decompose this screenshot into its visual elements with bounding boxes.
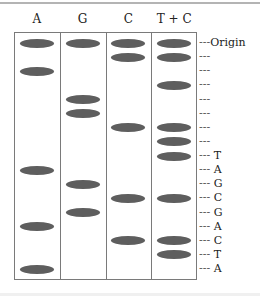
gel-band (157, 39, 191, 48)
dash-line: --- (199, 163, 210, 176)
dash-line: --- (199, 78, 210, 91)
row-marker: --- C (199, 192, 222, 204)
gel-band (66, 109, 100, 118)
marker-label: Origin (210, 36, 245, 49)
gel-band (157, 81, 191, 90)
row-marker: --- A (199, 263, 222, 275)
lane-divider (151, 32, 152, 280)
row-marker: --- T (199, 249, 221, 261)
gel-band (157, 152, 191, 161)
gel-band (157, 194, 191, 203)
dash-line: --- (199, 121, 210, 134)
dash-line: --- (199, 262, 210, 275)
marker-label: C (210, 234, 222, 247)
dash-line: --- (199, 50, 210, 63)
row-marker: --- (199, 65, 210, 77)
marker-label: G (210, 206, 222, 219)
dash-line: --- (199, 135, 210, 148)
marker-label: G (210, 177, 222, 190)
row-marker: --- (199, 51, 210, 63)
marker-label: T (210, 149, 221, 162)
gel-band (111, 39, 145, 48)
dash-line: --- (199, 220, 210, 233)
row-marker: --- (199, 108, 210, 120)
row-marker: --- (199, 94, 210, 106)
lane-label: G (60, 12, 106, 26)
marker-label: A (210, 220, 221, 233)
gel-band (66, 208, 100, 217)
gel-band (66, 95, 100, 104)
row-marker: --- (199, 122, 210, 134)
lane-label: T + C (151, 12, 197, 26)
row-marker: --- (199, 79, 210, 91)
lane-divider (106, 32, 107, 280)
marker-label: C (210, 191, 222, 204)
gel-band (20, 67, 54, 76)
gel-band (111, 53, 145, 62)
row-marker: --- T (199, 150, 221, 162)
dash-line: --- (199, 191, 210, 204)
row-marker: --- G (199, 178, 222, 190)
dash-line: --- (199, 36, 210, 49)
gel-band (20, 265, 54, 274)
dash-line: --- (199, 206, 210, 219)
marker-label: T (210, 248, 221, 261)
gel-band (157, 53, 191, 62)
dash-line: --- (199, 248, 210, 261)
gel-band (66, 39, 100, 48)
origin-marker: ---Origin (199, 37, 246, 49)
lane-label: A (14, 12, 60, 26)
dash-line: --- (199, 234, 210, 247)
marker-label: A (210, 163, 221, 176)
dash-line: --- (199, 93, 210, 106)
marker-label: A (210, 262, 221, 275)
lane-label: C (105, 12, 151, 26)
row-marker: --- C (199, 235, 222, 247)
dash-line: --- (199, 177, 210, 190)
top-rule (0, 2, 260, 4)
lane-divider (60, 32, 61, 280)
gel-band (20, 166, 54, 175)
row-marker: --- A (199, 164, 222, 176)
row-marker: --- (199, 136, 210, 148)
dash-line: --- (199, 107, 210, 120)
gel-band (20, 39, 54, 48)
row-marker: --- A (199, 221, 222, 233)
gel-band (66, 180, 100, 189)
row-marker: --- G (199, 207, 222, 219)
gel-band (111, 194, 145, 203)
dash-line: --- (199, 64, 210, 77)
dash-line: --- (199, 149, 210, 162)
